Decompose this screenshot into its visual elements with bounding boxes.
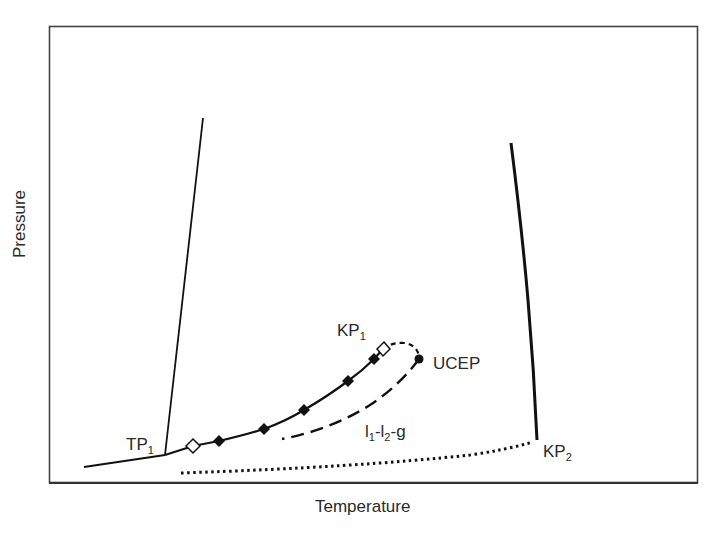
plot-frame xyxy=(50,27,698,483)
three-phase-label: l1-l2-g xyxy=(365,423,406,443)
critical-line-dotted xyxy=(181,442,533,473)
x-axis-label: Temperature xyxy=(315,497,410,517)
sublimation-line xyxy=(84,455,165,467)
ucep-filled-circle-marker xyxy=(415,355,424,364)
filled-diamond-marker xyxy=(258,423,270,435)
ucep-label: UCEP xyxy=(433,355,480,372)
kp1-label: KP1 xyxy=(337,322,366,342)
filled-diamond-marker xyxy=(298,404,310,416)
kp2-label: KP2 xyxy=(543,443,572,463)
y-axis-label: Pressure xyxy=(10,190,30,258)
vapor-pressure-curve-2 xyxy=(511,143,537,440)
vapor-pressure-curve-1 xyxy=(165,349,383,455)
filled-diamond-marker xyxy=(213,435,225,447)
melting-line xyxy=(165,118,203,455)
tp1-label: TP1 xyxy=(126,436,154,456)
phase-diagram xyxy=(0,0,720,534)
open-diamond-marker xyxy=(186,439,200,453)
